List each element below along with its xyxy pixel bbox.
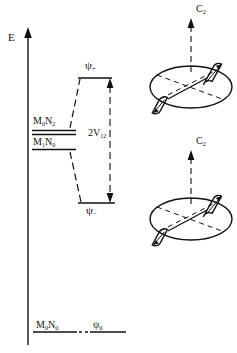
- ground-left-n-sub: 0: [55, 324, 58, 331]
- c2-axis-arrowhead-top: [188, 18, 195, 28]
- transition-dipole-bottom-left: [152, 229, 167, 246]
- c2-axis-top: [188, 18, 195, 76]
- molecule-bottom: [150, 150, 232, 246]
- c2-axis-arrowhead-bottom: [188, 150, 195, 160]
- psi-minus-label: ψ−: [86, 205, 97, 218]
- splitting-arrowhead-down: [107, 193, 114, 203]
- excited-lower-label: M1N0: [33, 137, 55, 148]
- c2-top-subscript: 2: [203, 8, 206, 15]
- coupling-symbol: 2V: [88, 127, 100, 138]
- psi-minus-subscript: −: [93, 210, 97, 217]
- ground-right-subscript: 0: [99, 324, 102, 331]
- transition-dipole-connector-bottom: [168, 210, 207, 231]
- c2-bottom-symbol: C: [196, 135, 203, 146]
- in-plane-axes-bottom: [157, 204, 222, 231]
- ground-left-m: M: [36, 319, 45, 330]
- c2-top-symbol: C: [196, 3, 203, 14]
- excited-lower-n-sub: 0: [52, 141, 55, 148]
- energy-axis-arrowhead: [24, 27, 32, 38]
- c2-axis-bottom: [188, 150, 195, 208]
- excited-upper-n-sub: 2: [52, 120, 55, 127]
- c2-label-top: C2: [196, 4, 206, 15]
- coupling-subscript: 12: [100, 132, 106, 139]
- splitting-arrow: [107, 78, 114, 203]
- psi-plus-label: ψ+: [85, 60, 96, 73]
- coupling-label: 2V12: [88, 128, 106, 139]
- correlation-lines: [70, 79, 81, 202]
- c2-bottom-subscript: 2: [203, 140, 206, 147]
- energy-level-diagram: [0, 0, 237, 353]
- transition-dipole-top-left: [152, 97, 167, 114]
- ground-left-label: M0N0: [36, 320, 58, 331]
- psi-plus-symbol: ψ: [85, 59, 92, 71]
- excited-upper-label: M0N2: [33, 116, 55, 127]
- transition-dipole-connector-top: [168, 78, 207, 99]
- energy-axis-label: E: [8, 32, 15, 43]
- molecule-top: [150, 18, 232, 114]
- in-plane-axes-top: [157, 72, 222, 99]
- ground-right-label: ψ0: [93, 320, 102, 331]
- psi-plus-subscript: +: [92, 65, 96, 72]
- transition-dipole-bottom-right: [204, 195, 222, 216]
- splitting-arrowhead-up: [107, 78, 114, 88]
- c2-label-bottom: C2: [196, 136, 206, 147]
- psi-minus-symbol: ψ: [86, 204, 93, 216]
- excited-upper-m: M: [33, 115, 42, 126]
- energy-axis: [24, 27, 32, 345]
- excited-lower-m: M: [33, 136, 42, 147]
